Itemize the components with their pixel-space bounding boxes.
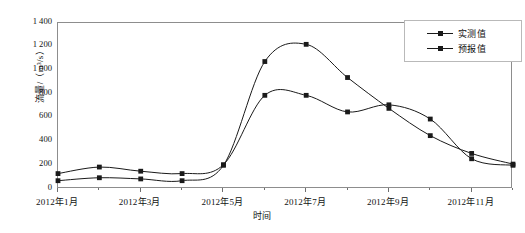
y-tick-label: 1 200 bbox=[6, 40, 52, 49]
data-point-marker bbox=[97, 165, 102, 170]
data-point-marker bbox=[511, 162, 516, 167]
x-tick-label: 2012年3月 bbox=[100, 195, 180, 208]
x-tick-mark bbox=[140, 188, 141, 192]
data-point-marker bbox=[345, 110, 350, 115]
data-point-marker bbox=[387, 106, 392, 111]
x-tick-mark bbox=[388, 188, 389, 192]
data-point-marker bbox=[138, 169, 143, 174]
data-point-marker bbox=[138, 177, 143, 182]
x-minor-tick-mark bbox=[181, 188, 182, 190]
data-point-marker bbox=[469, 151, 474, 156]
x-tick-mark bbox=[222, 188, 223, 192]
data-point-marker bbox=[262, 93, 267, 98]
series-line-forecast bbox=[58, 43, 513, 181]
legend-label-measured: 实测值 bbox=[458, 27, 486, 40]
legend-item-forecast[interactable]: 预报值 bbox=[405, 41, 521, 56]
data-point-marker bbox=[221, 163, 226, 168]
data-point-marker bbox=[180, 171, 185, 176]
x-tick-label: 2012年9月 bbox=[348, 195, 428, 208]
x-tick-mark bbox=[305, 188, 306, 192]
data-point-marker bbox=[97, 175, 102, 180]
x-minor-tick-mark bbox=[264, 188, 265, 190]
line-marker-icon bbox=[427, 44, 453, 54]
y-tick-label: 400 bbox=[6, 135, 52, 144]
x-tick-label: 2012年7月 bbox=[265, 195, 345, 208]
x-minor-tick-mark bbox=[98, 188, 99, 190]
data-point-marker bbox=[56, 171, 61, 176]
x-minor-tick-mark bbox=[347, 188, 348, 190]
x-tick-label: 2012年1月 bbox=[17, 195, 97, 208]
data-point-marker bbox=[428, 133, 433, 138]
data-point-marker bbox=[262, 59, 267, 64]
y-tick-label: 0 bbox=[6, 183, 52, 192]
y-tick-label: 600 bbox=[6, 111, 52, 120]
x-tick-mark bbox=[57, 188, 58, 192]
legend-item-measured[interactable]: 实测值 bbox=[405, 26, 521, 41]
data-point-marker bbox=[428, 117, 433, 122]
series-line-measured bbox=[58, 90, 513, 174]
x-minor-tick-mark bbox=[512, 188, 513, 190]
data-point-marker bbox=[345, 75, 350, 80]
line-marker-icon bbox=[427, 29, 453, 39]
x-tick-label: 2012年11月 bbox=[431, 195, 511, 208]
legend-label-forecast: 预报值 bbox=[458, 42, 486, 55]
data-point-marker bbox=[469, 156, 474, 161]
data-point-marker bbox=[304, 42, 309, 47]
flow-forecast-chart: 流量/（m³/s） 02004006008001 0001 2001 400 2… bbox=[0, 0, 525, 233]
y-tick-label: 1 400 bbox=[6, 17, 52, 26]
x-tick-mark bbox=[471, 188, 472, 192]
x-minor-tick-mark bbox=[429, 188, 430, 190]
data-point-marker bbox=[304, 93, 309, 98]
legend: 实测值 预报值 bbox=[404, 20, 522, 62]
y-tick-label: 200 bbox=[6, 159, 52, 168]
y-tick-label: 800 bbox=[6, 88, 52, 97]
x-axis-title: 时间 bbox=[0, 209, 525, 222]
x-tick-label: 2012年5月 bbox=[182, 195, 262, 208]
data-point-marker bbox=[56, 178, 61, 183]
data-point-marker bbox=[180, 178, 185, 183]
y-tick-label: 1 000 bbox=[6, 64, 52, 73]
